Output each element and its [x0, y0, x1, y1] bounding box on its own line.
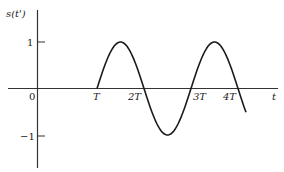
x-axis-label: t [272, 91, 277, 102]
y-axis-label: s(t') [6, 8, 26, 19]
x-tick-label-3T: 3T [193, 91, 207, 102]
x-tick-label-T: T [93, 91, 101, 102]
sine-chart: s(t') 1 −1 0 T 2T 3T 4T t [0, 0, 284, 172]
origin-label: 0 [29, 91, 35, 102]
x-tick-label-2T: 2T [127, 91, 142, 102]
y-tick-label-1: 1 [27, 37, 33, 48]
y-tick-label-neg1: −1 [20, 131, 35, 142]
x-tick-label-4T: 4T [222, 91, 237, 102]
